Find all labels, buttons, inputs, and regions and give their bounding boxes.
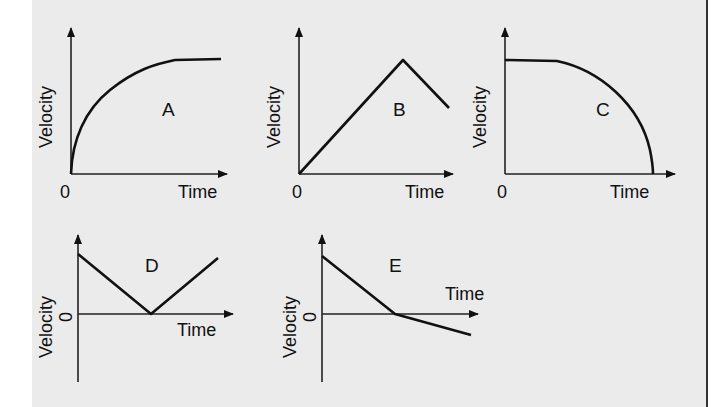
graph-c: Velocity 0 Time C	[470, 28, 675, 202]
x-axis-label: Time	[610, 182, 649, 202]
graph-e: Velocity 0 Time E	[280, 235, 484, 382]
velocity-time-graphs: Velocity 0 Time A Velocity 0 Time B Velo…	[0, 0, 711, 407]
origin-label: 0	[497, 182, 507, 202]
graph-label-d: D	[145, 255, 159, 276]
x-axis-label: Time	[178, 182, 217, 202]
y-axis-label: Velocity	[36, 296, 56, 358]
y-axis-label: Velocity	[264, 86, 284, 148]
graph-label-c: C	[596, 99, 610, 120]
graph-label-b: B	[393, 99, 406, 120]
curve-c	[505, 60, 653, 174]
graph-a: Velocity 0 Time A	[36, 28, 227, 202]
graph-label-e: E	[389, 255, 402, 276]
graph-d: Velocity 0 Time D	[36, 235, 233, 382]
y-axis-label: Velocity	[280, 296, 300, 358]
curve-a	[71, 59, 221, 174]
graph-b: Velocity 0 Time B	[264, 28, 453, 202]
x-axis-label: Time	[405, 182, 444, 202]
curve-b	[299, 60, 449, 174]
origin-label: 0	[300, 312, 320, 322]
y-axis-label: Velocity	[470, 86, 490, 148]
x-axis-label: Time	[177, 320, 216, 340]
origin-label: 0	[292, 182, 302, 202]
origin-label: 0	[60, 182, 70, 202]
x-axis-label: Time	[445, 284, 484, 304]
y-axis-label: Velocity	[36, 86, 56, 148]
graph-label-a: A	[162, 99, 175, 120]
origin-label: 0	[56, 312, 76, 322]
